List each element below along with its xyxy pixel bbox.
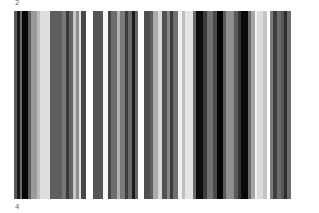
top-label: 2 [15, 0, 19, 7]
stripe [185, 11, 193, 199]
stripe [196, 11, 203, 199]
stripe-pattern [14, 11, 319, 199]
stripe [40, 11, 50, 199]
stripe [86, 11, 93, 199]
stripe [226, 11, 234, 199]
stripe [241, 11, 248, 199]
stripe [93, 11, 103, 199]
stripe [50, 11, 62, 199]
bottom-label: 4 [15, 204, 19, 211]
stripe [291, 11, 293, 199]
